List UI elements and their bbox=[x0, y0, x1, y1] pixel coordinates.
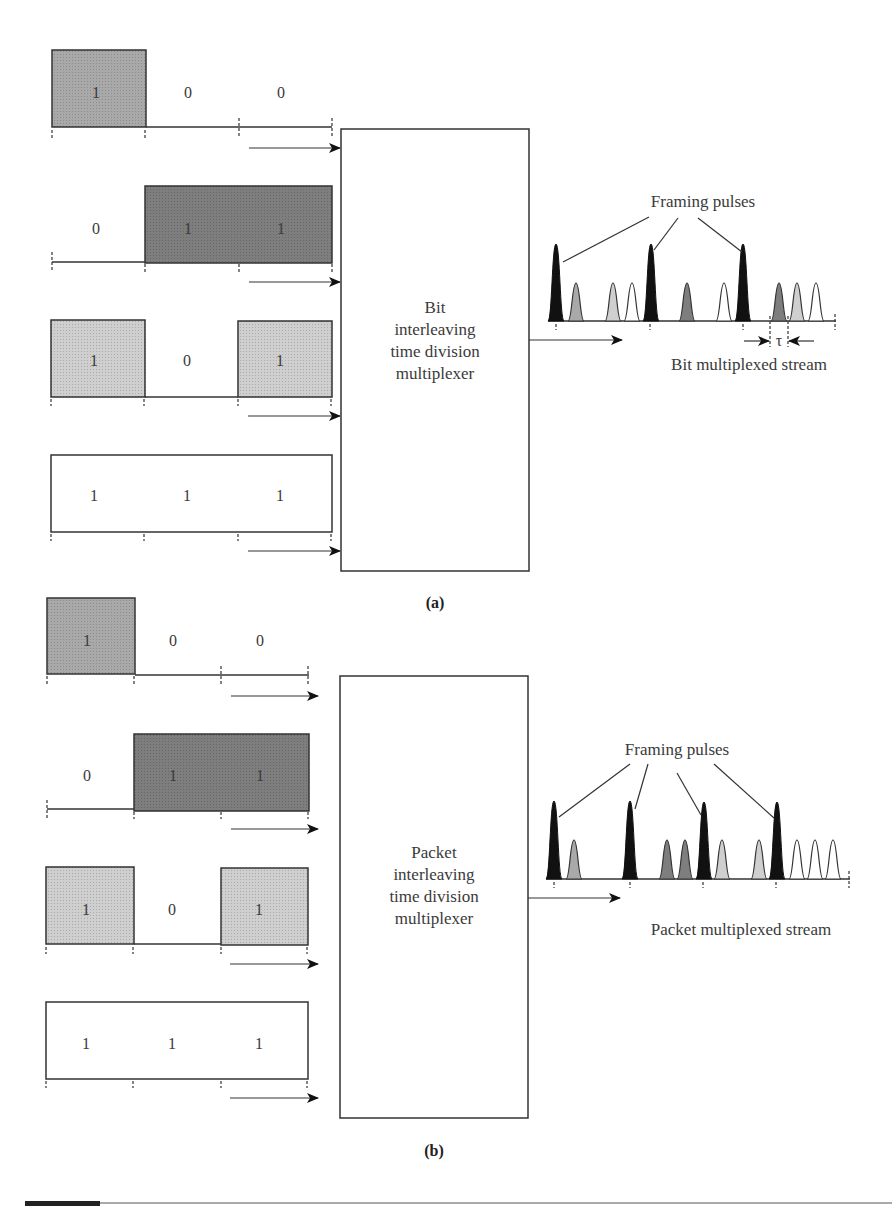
framing-pulses-label: Framing pulses bbox=[651, 192, 755, 211]
caption-b: (b) bbox=[424, 1142, 444, 1160]
svg-text:multiplexer: multiplexer bbox=[396, 364, 475, 383]
framing-pulse bbox=[622, 801, 638, 879]
framing-pulse bbox=[643, 244, 659, 321]
framing-pulse bbox=[696, 802, 712, 879]
bit-label: 1 bbox=[83, 632, 91, 649]
svg-text:time division: time division bbox=[389, 887, 479, 906]
input-channel-3: 1 0 1 bbox=[51, 320, 340, 416]
framing-pulses-label: Framing pulses bbox=[625, 740, 729, 759]
bit-label: 1 bbox=[168, 1035, 176, 1052]
input-channel-3: 1 0 1 bbox=[46, 867, 318, 964]
data-pulse-ch1 bbox=[566, 840, 582, 879]
svg-text:interleaving: interleaving bbox=[394, 320, 476, 339]
data-pulse-ch2 bbox=[679, 283, 695, 321]
input-channel-4: 1 1 1 bbox=[51, 455, 340, 551]
bit-label: 0 bbox=[256, 632, 264, 649]
bit-label: 1 bbox=[92, 84, 100, 101]
data-pulse-ch1 bbox=[568, 283, 584, 321]
bit-multiplexed-stream: τ Framing pulses Bit multiplexed stream bbox=[548, 192, 836, 374]
svg-text:time division: time division bbox=[390, 342, 480, 361]
part-a: 1 0 0 0 1 1 bbox=[51, 50, 836, 612]
data-pulse-ch3 bbox=[789, 283, 805, 321]
data-pulse-ch3 bbox=[751, 840, 767, 879]
input-channel-4: 1 1 1 bbox=[46, 1002, 318, 1098]
data-pulse-ch2 bbox=[659, 840, 675, 879]
data-pulse-ch4 bbox=[624, 283, 640, 321]
svg-text:Bit: Bit bbox=[425, 298, 446, 317]
packet-interleaving-mux: Packet interleaving time division multip… bbox=[340, 676, 528, 1118]
stream-label: Packet multiplexed stream bbox=[651, 920, 831, 939]
data-pulse-ch4 bbox=[789, 840, 805, 879]
bit-label: 1 bbox=[276, 352, 284, 369]
bit-label: 1 bbox=[169, 767, 177, 784]
input-channel-1: 1 0 0 bbox=[47, 598, 318, 696]
tau-label: τ bbox=[776, 332, 783, 349]
bit-label: 0 bbox=[169, 632, 177, 649]
input-channel-2: 0 1 1 bbox=[52, 186, 340, 282]
bit-interleaving-mux: Bit interleaving time division multiplex… bbox=[341, 129, 529, 571]
data-pulse-ch4 bbox=[808, 283, 824, 321]
tdm-diagram: 1 0 0 0 1 1 bbox=[0, 0, 892, 1214]
bit-label: 1 bbox=[184, 220, 192, 237]
packet-multiplexed-stream: Framing pulses Packet multiplexed stream bbox=[546, 740, 850, 939]
bit-label: 1 bbox=[90, 352, 98, 369]
bit-label: 1 bbox=[255, 1035, 263, 1052]
bit-label: 1 bbox=[183, 487, 191, 504]
bit-label: 1 bbox=[255, 901, 263, 918]
caption-a: (a) bbox=[426, 594, 445, 612]
framing-pulse bbox=[548, 244, 564, 321]
data-pulse-ch3 bbox=[605, 283, 621, 321]
framing-pulse bbox=[546, 801, 562, 879]
page-footer-rule bbox=[25, 1201, 892, 1206]
framing-pulse bbox=[735, 244, 751, 321]
bit-label: 0 bbox=[277, 84, 285, 101]
bit-label: 1 bbox=[90, 487, 98, 504]
bit-label: 0 bbox=[83, 767, 91, 784]
input-channel-1: 1 0 0 bbox=[52, 50, 340, 148]
bit-label: 1 bbox=[82, 1035, 90, 1052]
part-b: 1 0 0 0 1 1 bbox=[46, 598, 850, 1160]
data-pulse-ch4 bbox=[807, 840, 823, 879]
data-pulse-ch4 bbox=[825, 840, 841, 879]
bit-label: 1 bbox=[276, 487, 284, 504]
bit-label: 1 bbox=[256, 767, 264, 784]
input-channel-2: 0 1 1 bbox=[47, 734, 318, 829]
svg-text:interleaving: interleaving bbox=[393, 865, 475, 884]
svg-text:Packet: Packet bbox=[411, 843, 457, 862]
data-pulse-ch2 bbox=[771, 283, 787, 321]
data-pulse-ch3 bbox=[714, 840, 730, 879]
bit-label: 0 bbox=[92, 220, 100, 237]
framing-pulse bbox=[769, 802, 785, 879]
stream-label: Bit multiplexed stream bbox=[671, 355, 827, 374]
bit-label: 0 bbox=[168, 901, 176, 918]
bit-label: 1 bbox=[277, 220, 285, 237]
bit-label: 1 bbox=[82, 901, 90, 918]
data-pulse-ch2 bbox=[677, 840, 693, 879]
bit-label: 0 bbox=[184, 84, 192, 101]
data-pulse-ch4 bbox=[716, 283, 732, 321]
bit-label: 0 bbox=[183, 352, 191, 369]
svg-text:multiplexer: multiplexer bbox=[395, 909, 474, 928]
